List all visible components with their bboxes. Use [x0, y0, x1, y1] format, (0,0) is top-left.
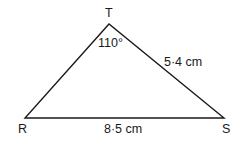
triangle-svg — [0, 0, 249, 141]
side-label-rs: 8·5 cm — [104, 123, 142, 136]
angle-label-t: 110° — [98, 37, 123, 50]
triangle-diagram: T 110° 5·4 cm R 8·5 cm S — [0, 0, 249, 141]
vertex-label-s: S — [222, 123, 230, 136]
triangle-rts — [25, 24, 224, 118]
vertex-label-t: T — [105, 7, 113, 20]
side-label-ts: 5·4 cm — [164, 56, 202, 69]
vertex-label-r: R — [18, 123, 27, 136]
